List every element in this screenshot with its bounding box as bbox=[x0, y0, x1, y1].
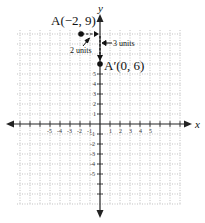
svg-text:4: 4 bbox=[93, 81, 96, 87]
callout-arrowhead-icon bbox=[102, 41, 106, 46]
svg-text:5: 5 bbox=[93, 71, 96, 77]
svg-text:1: 1 bbox=[93, 111, 96, 117]
svg-text:3: 3 bbox=[129, 128, 132, 134]
x-axis: x bbox=[6, 118, 200, 130]
svg-text:-2: -2 bbox=[77, 128, 82, 134]
point-a-prime bbox=[97, 61, 103, 67]
svg-text:-3: -3 bbox=[67, 128, 72, 134]
arrowhead-right-icon bbox=[94, 31, 99, 37]
svg-text:-4: -4 bbox=[57, 128, 62, 134]
point-a-label: A(−2, 9) bbox=[51, 13, 96, 28]
svg-text:-5: -5 bbox=[47, 128, 52, 134]
svg-text:-1: -1 bbox=[90, 131, 95, 137]
arrow-up-icon bbox=[97, 14, 104, 22]
arrow-down-icon bbox=[97, 210, 104, 218]
point-a-prime-label: A′(0, 6) bbox=[104, 58, 144, 73]
vertical-shift-label: 3 units bbox=[113, 39, 135, 48]
arrow-left-icon bbox=[6, 121, 14, 128]
arrowhead-down-icon bbox=[97, 55, 103, 61]
svg-text:-4: -4 bbox=[90, 161, 95, 167]
svg-text:4: 4 bbox=[139, 128, 142, 134]
svg-text:-2: -2 bbox=[90, 141, 95, 147]
svg-text:1: 1 bbox=[109, 128, 112, 134]
coordinate-plane: x -5 -4 -3 -2 -1 1 2 3 4 5 y 5 4 3 2 1 bbox=[0, 0, 205, 223]
svg-text:-5: -5 bbox=[90, 171, 95, 177]
arrow-right-icon bbox=[184, 121, 192, 128]
svg-text:5: 5 bbox=[149, 128, 152, 134]
svg-text:3: 3 bbox=[93, 91, 96, 97]
svg-text:2: 2 bbox=[93, 101, 96, 107]
x-axis-label: x bbox=[194, 118, 200, 130]
svg-text:2: 2 bbox=[119, 128, 122, 134]
svg-text:-3: -3 bbox=[90, 151, 95, 157]
callout-arrows bbox=[83, 38, 112, 46]
point-a bbox=[78, 31, 84, 37]
y-axis-label: y bbox=[97, 2, 103, 14]
horizontal-shift-label: 2 units bbox=[70, 46, 92, 55]
